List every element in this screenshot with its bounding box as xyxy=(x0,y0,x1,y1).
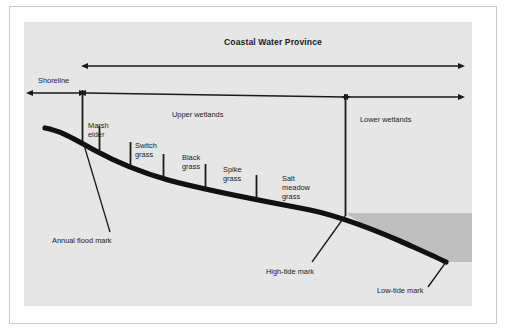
switch-grass-label-line1: Switch xyxy=(135,141,157,150)
salt-meadow-grass-label-line2: meadow xyxy=(282,183,311,192)
switch-grass-label-line2: grass xyxy=(135,150,153,159)
lower-wetlands-label: Lower wetlands xyxy=(360,115,412,124)
spike-grass-label-line2: grass xyxy=(223,174,241,183)
black-grass-label-line1: Black xyxy=(182,153,200,162)
diagram-canvas: Coastal Water Province Shoreline Upper w… xyxy=(0,0,506,332)
shoreline-label: Shoreline xyxy=(38,76,69,85)
panel-background xyxy=(24,22,472,306)
low-tide-mark-label: Low-tide mark xyxy=(377,286,424,295)
coastal-wetland-diagram: Coastal Water Province Shoreline Upper w… xyxy=(0,0,506,332)
annual-flood-mark-label: Annual flood mark xyxy=(52,236,112,245)
spike-grass-label-line1: Spike xyxy=(223,165,242,174)
marsh-elder-label-line2: elder xyxy=(88,130,105,139)
black-grass-label-line2: grass xyxy=(182,162,200,171)
page-title: Coastal Water Province xyxy=(224,37,322,47)
salt-meadow-grass-label-line3: grass xyxy=(282,192,300,201)
salt-meadow-grass-label-line1: Salt xyxy=(282,174,295,183)
marsh-elder-label-line1: Marsh xyxy=(88,121,109,130)
high-tide-mark-label: High-tide mark xyxy=(266,267,314,276)
upper-wetlands-label: Upper wetlands xyxy=(172,110,224,119)
